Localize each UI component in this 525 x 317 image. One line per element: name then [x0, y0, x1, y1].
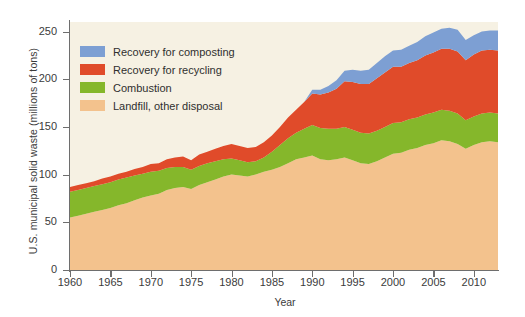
x-tick-label: 1985 — [250, 276, 294, 288]
y-tick-mark — [63, 32, 70, 33]
x-tick-label: 1975 — [169, 276, 213, 288]
legend-label: Combustion — [113, 82, 172, 94]
legend-swatch-icon — [80, 46, 105, 57]
legend-item: Recovery for recycling — [80, 61, 235, 78]
x-tick-label: 1980 — [210, 276, 254, 288]
legend-swatch-icon — [80, 100, 105, 111]
y-axis-line — [69, 20, 70, 272]
legend-label: Landfill, other disposal — [113, 100, 222, 112]
y-tick-label: 0 — [17, 263, 57, 275]
x-tick-label: 1960 — [48, 276, 92, 288]
x-axis-title: Year — [70, 296, 500, 308]
legend-item: Landfill, other disposal — [80, 97, 235, 114]
y-tick-mark — [63, 127, 70, 128]
y-tick-mark — [63, 222, 70, 223]
x-tick-label: 1995 — [331, 276, 375, 288]
legend-swatch-icon — [80, 82, 105, 93]
x-tick-label: 1965 — [88, 276, 132, 288]
legend-label: Recovery for composting — [113, 46, 235, 58]
y-tick-label: 100 — [17, 168, 57, 180]
chart-figure: U.S. municipal solid waste (millions of … — [0, 0, 525, 317]
y-tick-label: 250 — [17, 25, 57, 37]
y-tick-mark — [63, 270, 70, 271]
y-tick-mark — [63, 79, 70, 80]
y-axis-title: U.S. municipal solid waste (millions of … — [27, 26, 39, 276]
chart-legend: Recovery for compostingRecovery for recy… — [80, 43, 235, 115]
y-tick-label: 150 — [17, 120, 57, 132]
y-tick-label: 50 — [17, 215, 57, 227]
x-tick-label: 1970 — [129, 276, 173, 288]
x-tick-label: 2000 — [371, 276, 415, 288]
x-tick-label: 2010 — [452, 276, 496, 288]
x-tick-label: 2005 — [411, 276, 455, 288]
legend-item: Recovery for composting — [80, 43, 235, 60]
y-tick-mark — [63, 175, 70, 176]
legend-label: Recovery for recycling — [113, 64, 222, 76]
y-tick-label: 200 — [17, 72, 57, 84]
legend-item: Combustion — [80, 79, 235, 96]
legend-swatch-icon — [80, 64, 105, 75]
x-tick-label: 1990 — [290, 276, 334, 288]
